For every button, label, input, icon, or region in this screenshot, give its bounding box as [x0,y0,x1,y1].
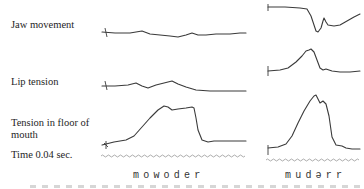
time-marker-right [266,159,359,161]
time-marker-left [101,155,245,157]
panel-mudarr [266,4,360,161]
trace-jaw-right [268,7,360,32]
cropped-caption-line [30,185,360,188]
trace-lip-right [268,49,360,72]
trace-floor-right [268,95,360,149]
trace-jaw-left [102,31,246,37]
trace-plot [0,0,364,189]
utterance-label-left: mowoder [133,170,204,181]
utterance-label-right: mudərr [285,170,346,181]
trace-lip-left [102,81,246,91]
panel-mowoder [101,28,246,157]
trace-floor-left [102,106,246,145]
